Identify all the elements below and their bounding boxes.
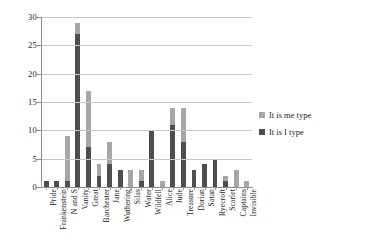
y-axis-line — [41, 17, 42, 187]
x-axis-tick — [67, 187, 68, 190]
gridline — [41, 74, 252, 75]
x-axis-tick-label: Treasure — [186, 189, 195, 216]
x-axis-tick-label: Jude — [175, 189, 184, 203]
bar-group — [170, 108, 175, 187]
x-axis-tick — [162, 187, 163, 190]
x-axis-tick — [226, 187, 227, 190]
x-axis-tick — [57, 187, 58, 190]
legend-swatch-i-type — [259, 129, 265, 135]
plot-area — [41, 17, 252, 187]
chart-legend: It is me type It is I type — [259, 110, 311, 144]
gridline — [41, 159, 252, 160]
gridline — [41, 130, 252, 131]
x-axis-tick-label: Dorian — [197, 189, 206, 211]
gridline — [41, 17, 252, 18]
bar-group — [86, 91, 91, 187]
x-axis-tick — [88, 187, 89, 190]
legend-item-me-type: It is me type — [259, 110, 311, 120]
x-axis-tick — [194, 187, 195, 190]
x-axis-tick-label: Alice — [165, 189, 174, 206]
x-axis-tick — [46, 187, 47, 190]
plot-floor-depth — [41, 181, 253, 188]
x-axis-tick — [78, 187, 79, 190]
x-axis-tick-label: Great — [91, 189, 100, 206]
gridline — [41, 45, 252, 46]
bar-segment-me-type — [75, 23, 80, 34]
x-axis-labels: PrideFrankensteinN and SVanityGreatBarch… — [41, 189, 252, 244]
x-axis-tick-label: Silas — [133, 189, 142, 204]
bar-group — [75, 23, 80, 187]
bar-group — [181, 108, 186, 187]
legend-label-me-type: It is me type — [269, 110, 311, 120]
x-axis-tick — [215, 187, 216, 190]
x-axis-tick — [183, 187, 184, 190]
x-axis-tick — [236, 187, 237, 190]
y-axis-labels: 051015202530 — [0, 17, 37, 187]
x-axis-tick-label: Vanity — [81, 189, 90, 209]
x-axis-tick-label: Wildfell — [154, 189, 163, 215]
x-axis-tick-label: Barchester — [102, 189, 111, 222]
x-axis-tick — [152, 187, 153, 190]
x-axis-tick — [131, 187, 132, 190]
bar-segment-me-type — [181, 108, 186, 142]
bar-segment-me-type — [139, 170, 144, 181]
bar-segment-i-type — [75, 34, 80, 187]
x-axis-tick — [173, 187, 174, 190]
bar-segment-me-type — [107, 142, 112, 165]
x-axis-tick-label: N and S — [70, 189, 79, 214]
x-axis-tick-label: Ryecroft — [218, 189, 227, 216]
bar-segment-i-type — [170, 125, 175, 187]
legend-item-i-type: It is I type — [259, 127, 311, 137]
bar-group — [65, 136, 70, 187]
x-axis-tick — [120, 187, 121, 190]
x-axis-tick — [99, 187, 100, 190]
x-axis-tick-label: Water — [144, 189, 153, 207]
x-axis-tick — [247, 187, 248, 190]
x-axis-tick-label: Captains — [239, 189, 248, 216]
x-axis-tick — [205, 187, 206, 190]
legend-swatch-me-type — [259, 112, 265, 118]
gridline — [41, 102, 252, 103]
bar-segment-me-type — [86, 91, 91, 148]
x-axis-tick-label: Scarlet — [228, 189, 237, 211]
x-axis-tick-label: Frankenstein — [59, 189, 68, 229]
stacked-bar-chart: 051015202530 PrideFrankensteinN and SVan… — [0, 0, 367, 244]
legend-label-i-type: It is I type — [269, 127, 304, 137]
x-axis-tick-label: Pride — [49, 189, 58, 206]
x-axis-tick — [141, 187, 142, 190]
bar-segment-me-type — [170, 108, 175, 125]
bar-segment-me-type — [97, 164, 102, 175]
x-axis-tick-label: Wuthering — [123, 189, 132, 222]
x-axis-tick-label: Jane — [112, 189, 121, 203]
x-axis-tick-label: Satan — [207, 189, 216, 206]
x-axis-tick-label: Invisible — [249, 189, 258, 216]
x-axis-tick — [110, 187, 111, 190]
